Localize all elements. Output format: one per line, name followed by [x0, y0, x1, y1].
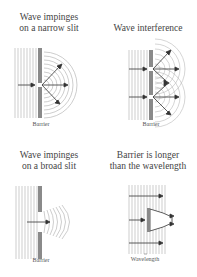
barrier-label: Barrier [24, 257, 58, 263]
panel-long-barrier: Barrier is longer than the wavelength [99, 139, 197, 277]
barrier-label: Barrier [134, 121, 168, 127]
arrows [129, 50, 179, 115]
shadow-region [150, 209, 172, 231]
incoming-wavefronts [15, 48, 36, 118]
barrier [38, 186, 42, 259]
incoming-wavefronts [129, 50, 147, 120]
barrier [149, 50, 153, 120]
barrier [147, 208, 150, 232]
interference-diagram [99, 0, 197, 138]
barrier-label: Barrier [24, 121, 58, 127]
panel-narrow-slit: Wave impinges on a narrow slit [0, 0, 98, 138]
barrier [38, 48, 42, 118]
panel-broad-slit: Wave impinges on a broad slit [0, 139, 98, 277]
panel-wave-interference: Wave interference [99, 0, 197, 138]
wavelength-label: Wavelength [125, 256, 165, 262]
arrows [27, 220, 50, 224]
incoming-wavefronts [16, 186, 37, 259]
narrow-slit-diagram [0, 0, 98, 138]
